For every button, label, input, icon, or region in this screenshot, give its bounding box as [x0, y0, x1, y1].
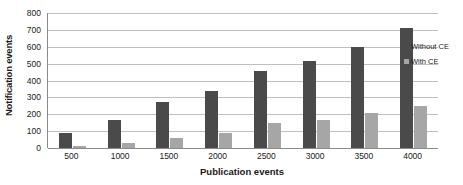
- legend-item[interactable]: Without CE: [404, 42, 463, 51]
- bar: [122, 143, 135, 148]
- bar: [156, 102, 169, 148]
- x-axis-tick-label: 1500: [145, 151, 194, 165]
- x-axis-tick-label: 3000: [291, 151, 340, 165]
- bar-group: [389, 13, 438, 148]
- bar: [59, 133, 72, 148]
- bar-group: [243, 13, 292, 148]
- y-axis-tick-labels: 0100200300400500600700800: [18, 8, 44, 150]
- bar: [205, 91, 218, 148]
- bar-group: [48, 13, 97, 148]
- legend-swatch-icon: [404, 59, 409, 64]
- x-axis-title: Publication events: [47, 166, 437, 177]
- legend-label: Without CE: [411, 42, 449, 51]
- bar: [170, 138, 183, 148]
- x-axis-tick-label: 1000: [96, 151, 145, 165]
- bar-group: [97, 13, 146, 148]
- bar: [254, 71, 267, 148]
- y-axis-title: Notification events: [0, 0, 18, 150]
- y-axis-tick-label: 0: [36, 143, 41, 153]
- y-axis-tick-label: 500: [27, 59, 41, 69]
- bar: [303, 61, 316, 148]
- x-axis-tick-label: 2000: [193, 151, 242, 165]
- bar-group: [292, 13, 341, 148]
- y-axis-title-text: Notification events: [4, 34, 15, 115]
- y-axis-tick-label: 300: [27, 92, 41, 102]
- bar: [108, 120, 121, 148]
- bar: [268, 123, 281, 148]
- bar: [351, 47, 364, 148]
- x-axis-tick-label: 2500: [242, 151, 291, 165]
- y-axis-tick-label: 600: [27, 42, 41, 52]
- bar: [73, 146, 86, 148]
- x-axis-tick-label: 500: [47, 151, 96, 165]
- legend-item[interactable]: With CE: [404, 57, 463, 66]
- bar-chart: Notification events 01002003004005006007…: [0, 0, 463, 185]
- x-axis-tick-label: 4000: [388, 151, 437, 165]
- y-axis-tick-label: 200: [27, 109, 41, 119]
- bar: [219, 133, 232, 148]
- bar-group: [146, 13, 195, 148]
- y-axis-tick-label: 100: [27, 126, 41, 136]
- legend-swatch-icon: [404, 44, 409, 49]
- bar-group: [194, 13, 243, 148]
- x-axis-tick-label: 3500: [340, 151, 389, 165]
- y-axis-tick-label: 400: [27, 76, 41, 86]
- bar: [365, 113, 378, 148]
- legend: Without CEWith CE: [404, 42, 463, 72]
- y-axis-tick-label: 800: [27, 8, 41, 18]
- bar: [414, 106, 427, 148]
- bar: [317, 120, 330, 148]
- legend-label: With CE: [411, 57, 439, 66]
- bars-layer: [48, 13, 438, 148]
- x-axis-tick-labels: 5001000150020002500300035004000: [47, 151, 437, 165]
- bar-group: [341, 13, 390, 148]
- plot-area: [47, 13, 438, 148]
- y-axis-tick-label: 700: [27, 25, 41, 35]
